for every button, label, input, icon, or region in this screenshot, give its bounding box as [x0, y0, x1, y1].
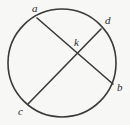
point-label-c: c [18, 106, 23, 117]
point-label-k: k [74, 37, 79, 48]
main-circle [8, 9, 116, 117]
chord-ab [37, 18, 113, 84]
chord-cd [28, 29, 101, 104]
geometry-figure: a d k b c [0, 0, 130, 125]
point-label-a: a [32, 3, 38, 14]
point-label-d: d [105, 15, 111, 26]
point-label-b: b [117, 82, 123, 93]
